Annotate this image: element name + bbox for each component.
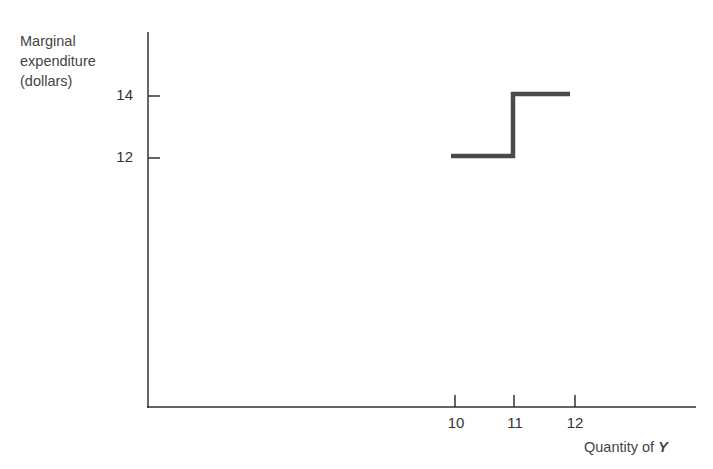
y-axis-label-line-1: Marginal (20, 31, 96, 51)
x-axis-label: Quantity of Y (584, 439, 668, 455)
y-axis-label: Marginal expenditure (dollars) (20, 31, 96, 91)
y-axis-label-line-3: (dollars) (20, 71, 96, 91)
y-axis-label-line-2: expenditure (20, 51, 96, 71)
y-tick-label-12: 12 (103, 148, 133, 165)
x-tick-label-12: 12 (560, 414, 590, 431)
x-axis-label-variable: Y (658, 439, 668, 455)
marginal-expenditure-step-line (451, 94, 570, 156)
y-tick-label-14: 14 (103, 86, 133, 103)
x-axis-label-prefix: Quantity of (584, 439, 658, 455)
x-tick-label-10: 10 (441, 414, 471, 431)
x-tick-label-11: 11 (500, 414, 530, 431)
chart-canvas (0, 0, 713, 469)
